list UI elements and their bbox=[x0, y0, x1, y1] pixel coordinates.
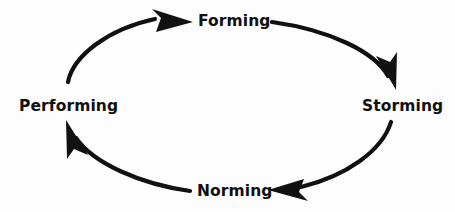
arrow-storming-to-norming bbox=[268, 122, 391, 201]
arrow-forming-to-storming bbox=[272, 22, 397, 90]
stage-label-norming: Norming bbox=[197, 184, 273, 200]
arrow-path-norming-to-performing bbox=[76, 138, 190, 191]
cycle-diagram: Forming Storming Norming Performing bbox=[0, 0, 455, 212]
arrow-path-performing-to-forming bbox=[68, 19, 155, 82]
arrowhead-storming bbox=[376, 52, 397, 90]
arrow-norming-to-performing bbox=[66, 120, 190, 191]
stage-label-forming: Forming bbox=[198, 14, 271, 30]
arrow-path-forming-to-storming bbox=[272, 22, 388, 76]
arrow-performing-to-forming bbox=[68, 9, 193, 82]
stage-label-performing: Performing bbox=[19, 99, 118, 115]
arrowhead-norming bbox=[268, 179, 308, 201]
arrow-path-storming-to-norming bbox=[301, 122, 391, 187]
stage-label-storming: Storming bbox=[362, 99, 443, 115]
arrowhead-forming bbox=[152, 9, 193, 32]
arrowhead-performing bbox=[66, 120, 88, 159]
